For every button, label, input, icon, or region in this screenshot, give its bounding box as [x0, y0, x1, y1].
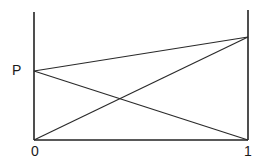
diagram-canvas	[0, 0, 264, 165]
axis-label-zero: 0	[31, 144, 39, 158]
segment-p-to-right-bottom	[34, 71, 248, 140]
segment-p-to-right-top	[34, 37, 248, 71]
point-label-p: P	[12, 63, 21, 77]
segment-origin-to-right-top	[34, 37, 248, 140]
axis-label-one: 1	[244, 144, 252, 158]
